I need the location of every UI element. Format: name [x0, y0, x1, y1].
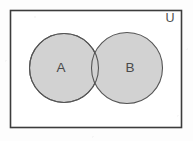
- set-a-label: A: [56, 60, 65, 75]
- venn-diagram-figure: A B U: [0, 0, 193, 141]
- venn-diagram-canvas: A B U: [0, 0, 193, 141]
- universal-set-label: U: [165, 11, 174, 25]
- set-b-label: B: [125, 60, 134, 75]
